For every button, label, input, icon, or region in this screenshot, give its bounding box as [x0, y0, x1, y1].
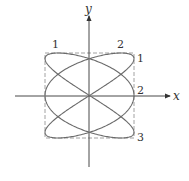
lissajous-figure: y x 1 2 1 2 3	[0, 0, 189, 181]
right-label-2: 2	[137, 84, 144, 97]
lissajous-curve	[45, 53, 134, 138]
x-axis-label: x	[173, 89, 180, 103]
top-label-1: 1	[52, 38, 59, 51]
right-label-1: 1	[137, 52, 144, 65]
top-label-2: 2	[117, 38, 124, 51]
right-label-3: 3	[137, 131, 144, 144]
y-axis-label: y	[84, 2, 92, 16]
